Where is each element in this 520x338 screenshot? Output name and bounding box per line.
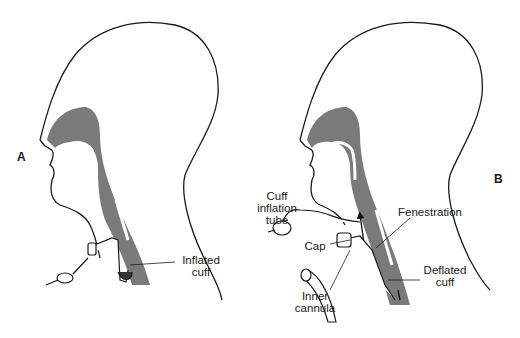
- label-line: cannula: [290, 302, 340, 314]
- label-inflated-cuff: Inflated cuff: [176, 254, 226, 278]
- label-line: Deflated: [420, 264, 470, 276]
- label-line: cuff: [420, 276, 470, 288]
- label-line: inflation: [252, 202, 302, 214]
- airway-a: [47, 107, 150, 285]
- panel-label-b: B: [494, 172, 503, 186]
- label-line: Inner: [290, 290, 340, 302]
- label-line: Fenestration: [390, 206, 470, 218]
- label-line: Cuff: [252, 190, 302, 202]
- label-line: Inflated: [176, 254, 226, 266]
- label-cap: Cap: [300, 240, 330, 252]
- label-line: Cap: [300, 240, 330, 252]
- label-inner-cannula: Inner cannula: [290, 290, 340, 314]
- label-cuff-inflation-tube: Cuff inflation tube: [252, 190, 302, 226]
- panel-label-a: A: [17, 150, 26, 164]
- label-line: tube: [252, 214, 302, 226]
- label-deflated-cuff: Deflated cuff: [420, 264, 470, 288]
- label-fenestration: Fenestration: [390, 206, 470, 218]
- label-line: cuff: [176, 266, 226, 278]
